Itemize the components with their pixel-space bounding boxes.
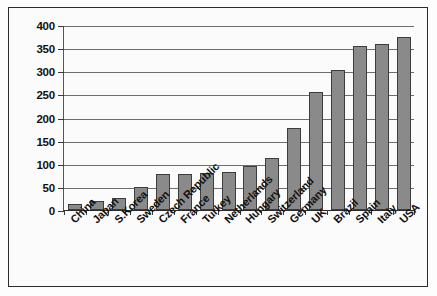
plot-area: 050100150200250300350400 xyxy=(63,26,414,211)
chart-root: 050100150200250300350400 ChinaJapanS.Kor… xyxy=(0,0,437,296)
y-axis-tick-label: 300 xyxy=(36,66,55,78)
y-axis-tick-label: 250 xyxy=(36,89,55,101)
y-axis-tick-label: 400 xyxy=(36,20,55,32)
y-axis-tick-label: 100 xyxy=(36,159,55,171)
y-axis-tick-label: 350 xyxy=(36,43,55,55)
bar xyxy=(353,46,367,210)
y-axis-tick-label: 150 xyxy=(36,136,55,148)
bar-series xyxy=(64,26,414,210)
x-axis-tick xyxy=(64,210,65,215)
bar xyxy=(397,37,411,210)
bar xyxy=(331,70,345,210)
y-axis-tick-label: 50 xyxy=(43,182,55,194)
y-axis-tick-label: 0 xyxy=(49,205,55,217)
bar xyxy=(375,44,389,210)
y-axis-tick-label: 200 xyxy=(36,113,55,125)
x-axis-labels: ChinaJapanS.KoreaSwedenCzech RepublicFra… xyxy=(63,217,414,292)
